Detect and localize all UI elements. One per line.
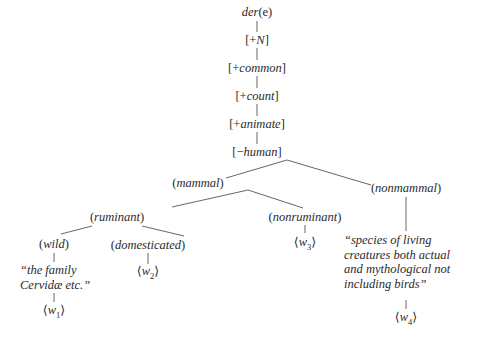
leaf-w4: ⟨w4⟩ xyxy=(395,310,417,329)
root-label: der xyxy=(242,5,259,19)
node-wild: (wild) xyxy=(39,237,69,251)
node-nonmammal: (nonmammal) xyxy=(371,181,441,195)
node-label: wild xyxy=(43,237,65,251)
gloss-nonmammal: “species of living creatures both actual… xyxy=(344,233,450,291)
semantic-tree-diagram: der(e) [+N] [+common] [+count] [+animate… xyxy=(0,0,478,339)
leaf-subscript: 4 xyxy=(408,317,412,327)
node-mammal: (mammal) xyxy=(172,176,223,190)
feature-label: animate xyxy=(240,117,280,131)
leaf-w2: ⟨w2⟩ xyxy=(137,264,159,283)
leaf-subscript: 2 xyxy=(150,271,154,281)
feature-label: N xyxy=(256,33,264,47)
node-label: nonruminant xyxy=(273,210,338,224)
node-domesticated: (domesticated) xyxy=(111,238,185,252)
node-label: mammal xyxy=(176,176,219,190)
leaf-subscript: 3 xyxy=(307,242,311,252)
feature-label: count xyxy=(247,89,275,103)
leaf-w3: ⟨w3⟩ xyxy=(294,235,316,254)
leaf-base: w xyxy=(48,303,56,317)
root-node-der-e: der(e) xyxy=(242,5,273,19)
feature-label: common xyxy=(239,61,281,75)
leaf-base: w xyxy=(142,264,150,278)
feature-node-human: [−human] xyxy=(232,145,281,159)
leaf-base: w xyxy=(400,310,408,324)
feature-node-count: [+count] xyxy=(235,89,278,103)
feature-node-n: [+N] xyxy=(245,33,269,47)
feature-node-animate: [+animate] xyxy=(229,117,285,131)
feature-label: human xyxy=(244,145,278,159)
node-nonruminant: (nonruminant) xyxy=(269,210,342,224)
feature-node-common: [+common] xyxy=(228,61,286,75)
node-label: ruminant xyxy=(94,210,140,224)
root-suffix: (e) xyxy=(258,5,272,19)
leaf-w1: ⟨w1⟩ xyxy=(43,303,65,322)
node-label: domesticated xyxy=(115,238,181,252)
node-label: nonmammal xyxy=(375,181,437,195)
node-ruminant: (ruminant) xyxy=(90,210,144,224)
leaf-base: w xyxy=(299,235,307,249)
gloss-wild: “the family Cervidæ etc.” xyxy=(20,263,90,292)
leaf-subscript: 1 xyxy=(56,310,60,320)
